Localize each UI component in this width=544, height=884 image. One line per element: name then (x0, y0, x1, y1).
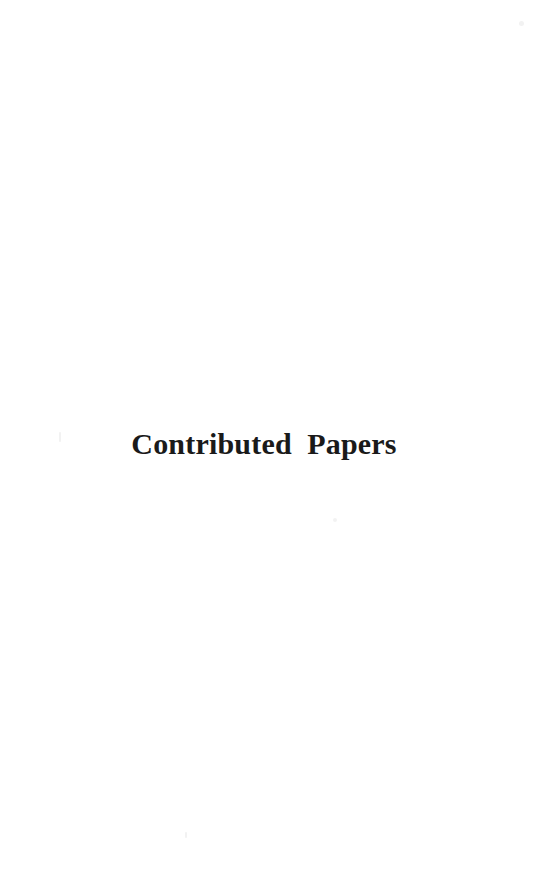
page-title: Contributed Papers (131, 428, 396, 460)
scan-artifact-speck (333, 518, 337, 522)
section-title-block: Contributed Papers (0, 428, 528, 460)
scan-artifact-speck (519, 21, 524, 26)
book-page: Contributed Papers (0, 0, 544, 884)
scan-artifact-speck (185, 832, 187, 838)
